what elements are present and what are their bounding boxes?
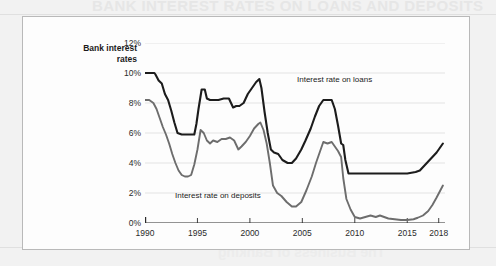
- y-axis-tick-label: 0%: [129, 218, 141, 228]
- figure-panel: Bank interest rates 0%2%4%6%8%10%12% 199…: [22, 16, 470, 250]
- ghost-heading-top: BANK INTEREST RATES ON LOANS AND DEPOSIT…: [92, 0, 483, 14]
- x-axis-tick-label: 1995: [188, 228, 207, 238]
- x-axis-tick-label: 1990: [136, 228, 155, 238]
- x-axis-tick-label: 2015: [398, 228, 417, 238]
- y-axis-tick-label: 2%: [129, 188, 141, 198]
- y-axis-tick-label: 10%: [124, 68, 141, 78]
- series-line-loans: [145, 73, 443, 174]
- page-rule-top: [0, 14, 496, 15]
- series-label-deposits: Interest rate on deposits: [175, 191, 261, 200]
- page-background: BANK INTEREST RATES ON LOANS AND DEPOSIT…: [0, 0, 496, 266]
- y-axis-tick-label: 4%: [129, 158, 141, 168]
- x-axis-tick-label: 2000: [240, 228, 259, 238]
- x-axis-tick-label: 2010: [345, 228, 364, 238]
- y-axis-tick-label: 8%: [129, 98, 141, 108]
- plot-area: 0%2%4%6%8%10%12% 19901995200020052010201…: [145, 43, 445, 223]
- gridlines: [145, 43, 445, 193]
- series-label-loans: Interest rate on loans: [297, 75, 372, 84]
- y-axis-title-line2: rates: [47, 54, 137, 65]
- x-axis-tick-label: 2018: [429, 228, 448, 238]
- y-axis-tick-label: 12%: [124, 38, 141, 48]
- y-axis-tick-label: 6%: [129, 128, 141, 138]
- x-axis-tick-label: 2005: [293, 228, 312, 238]
